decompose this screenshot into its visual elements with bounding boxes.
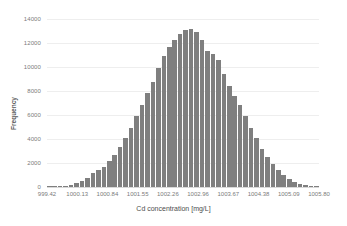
histogram-bar bbox=[145, 93, 150, 187]
x-axis-tick-label: 999.42 bbox=[38, 191, 56, 197]
histogram-bar bbox=[232, 96, 237, 187]
histogram-bar bbox=[151, 82, 156, 187]
x-axis-tick-label: 1002.26 bbox=[157, 191, 179, 197]
histogram-bar bbox=[211, 54, 216, 187]
y-axis-tick-label: 10000 bbox=[24, 64, 41, 70]
histogram-chart: Frequency 020004000600080001000012000140… bbox=[0, 0, 347, 226]
histogram-bar bbox=[156, 68, 161, 187]
x-axis-tick-label: 1003.67 bbox=[217, 191, 239, 197]
histogram-bar bbox=[123, 138, 128, 187]
y-axis-tick-label: 2000 bbox=[27, 160, 41, 166]
histogram-bar bbox=[200, 40, 205, 187]
plot-area bbox=[47, 19, 319, 188]
histogram-bar bbox=[194, 32, 199, 187]
histogram-bar bbox=[216, 60, 221, 187]
histogram-bar bbox=[265, 157, 270, 187]
histogram-bar bbox=[140, 105, 145, 187]
histogram-bar bbox=[287, 179, 292, 187]
histogram-bar bbox=[205, 51, 210, 187]
histogram-bar bbox=[134, 116, 139, 187]
histogram-bar bbox=[183, 30, 188, 187]
histogram-bar bbox=[178, 34, 183, 187]
histogram-bar bbox=[102, 167, 107, 187]
histogram-bar bbox=[249, 128, 254, 187]
histogram-bar bbox=[227, 86, 232, 187]
histogram-bar bbox=[222, 74, 227, 187]
histogram-bar bbox=[172, 40, 177, 187]
histogram-bar bbox=[91, 173, 96, 187]
histogram-bar bbox=[107, 161, 112, 187]
y-axis-tick-labels: 02000400060008000100001200014000 bbox=[0, 19, 45, 188]
y-axis-tick-label: 14000 bbox=[24, 16, 41, 22]
x-axis-tick-label: 1005.09 bbox=[278, 191, 300, 197]
x-axis-baseline bbox=[47, 187, 319, 188]
histogram-bar bbox=[271, 164, 276, 187]
histogram-bar bbox=[162, 56, 167, 187]
x-axis-tick-label: 1002.96 bbox=[187, 191, 209, 197]
y-axis-tick-label: 0 bbox=[38, 184, 41, 190]
x-axis-tick-label: 1001.55 bbox=[127, 191, 149, 197]
histogram-bar bbox=[118, 147, 123, 187]
x-axis-tick-labels: 999.421000.131000.841001.551002.261002.9… bbox=[47, 191, 319, 203]
y-axis-tick-label: 8000 bbox=[27, 88, 41, 94]
x-axis-title: Cd concentration [mg/L] bbox=[0, 205, 347, 212]
histogram-bar bbox=[167, 47, 172, 187]
y-axis-tick-label: 12000 bbox=[24, 40, 41, 46]
histogram-bar bbox=[276, 170, 281, 187]
x-axis-tick-label: 1005.80 bbox=[308, 191, 330, 197]
x-axis-tick-label: 1000.13 bbox=[66, 191, 88, 197]
histogram-bar bbox=[254, 138, 259, 187]
x-axis-tick-label: 1000.84 bbox=[97, 191, 119, 197]
histogram-bar bbox=[238, 105, 243, 187]
y-axis-tick-label: 4000 bbox=[27, 136, 41, 142]
histogram-bar bbox=[129, 128, 134, 187]
histogram-bar bbox=[243, 116, 248, 187]
histogram-bar bbox=[189, 29, 194, 187]
histogram-bar bbox=[281, 175, 286, 187]
y-axis-tick-label: 6000 bbox=[27, 112, 41, 118]
histogram-bar bbox=[85, 178, 90, 187]
histogram-bar bbox=[96, 170, 101, 187]
x-axis-tick-label: 1004.38 bbox=[248, 191, 270, 197]
histogram-bar bbox=[260, 149, 265, 187]
histogram-bars bbox=[47, 19, 319, 187]
histogram-bar bbox=[112, 155, 117, 187]
